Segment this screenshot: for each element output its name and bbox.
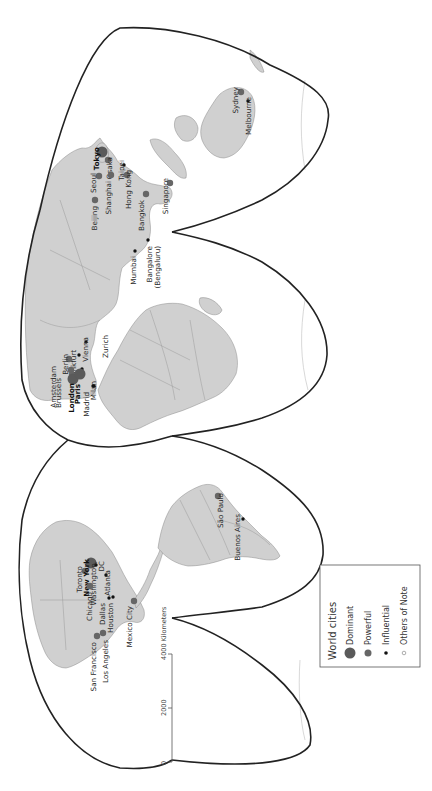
landmass-madagascar bbox=[199, 298, 222, 315]
legend-dominant-label: Dominant bbox=[346, 606, 355, 645]
landmass-central-america bbox=[134, 550, 163, 608]
city-marker-powerful bbox=[92, 197, 98, 203]
city-marker-powerful bbox=[108, 172, 114, 178]
city-label: Shanghai bbox=[104, 181, 113, 215]
city-melbourne: Melbourne bbox=[244, 96, 253, 135]
city-label: Tokyo bbox=[92, 147, 101, 170]
city-marker-powerful bbox=[87, 583, 93, 589]
city-label: Brussels bbox=[54, 378, 63, 408]
city-label: Beijing bbox=[90, 206, 99, 230]
city-label: DC bbox=[97, 561, 106, 572]
city-marker-influential bbox=[107, 596, 110, 599]
city-bangalore-bengaluru: Bangalore(Bengaluru) bbox=[145, 238, 162, 288]
legend-powerful-label: Powerful bbox=[364, 611, 373, 645]
legend-influential-symbol bbox=[384, 651, 388, 655]
city-marker-powerful bbox=[131, 598, 137, 604]
city-marker-powerful bbox=[100, 630, 106, 636]
legend-others-label: Others of Note bbox=[400, 586, 409, 645]
city-s-o-paulo: São Paulo bbox=[215, 493, 225, 528]
city-marker-influential bbox=[92, 384, 95, 387]
city-vienna: Vienna bbox=[81, 337, 90, 362]
city-label: Bangkok bbox=[137, 199, 146, 231]
city-marker-dominant bbox=[75, 369, 86, 380]
city-label: Houston bbox=[106, 603, 115, 633]
city-label: Melbourne bbox=[244, 96, 253, 135]
landmass-sea-islands bbox=[150, 139, 186, 178]
scale-label-4000: 4000 Kilometers bbox=[160, 606, 168, 660]
city-label: Hong Kong bbox=[124, 170, 133, 209]
city-label: Vienna bbox=[81, 337, 90, 362]
landmass-borneo bbox=[174, 116, 198, 142]
city-label: Mexico City bbox=[125, 605, 134, 647]
city-atlanta: Atlanta bbox=[103, 570, 112, 596]
city-label: Madrid bbox=[82, 392, 91, 417]
legend: World cities Dominant Powerful Influenti… bbox=[320, 565, 420, 667]
city-marker-powerful bbox=[143, 191, 149, 197]
city-label: Mumbai bbox=[129, 256, 138, 285]
meridian-lines bbox=[299, 80, 308, 740]
city-label: Sydney bbox=[231, 86, 240, 113]
landmass-new-zealand bbox=[250, 50, 264, 72]
scale-bar: 0 2000 4000 Kilometers bbox=[160, 606, 172, 765]
city-label: Singapore bbox=[161, 177, 170, 214]
legend-others-symbol bbox=[402, 651, 406, 655]
city-label: San Francisco bbox=[89, 642, 98, 691]
city-label: São Paulo bbox=[216, 493, 225, 528]
city-label: Buenos Aires bbox=[233, 514, 242, 561]
city-marker-powerful bbox=[94, 633, 100, 639]
city-label: Atlanta bbox=[103, 570, 112, 596]
city-label: Chicago bbox=[85, 592, 94, 621]
world-cities-map: TokyoOsakaSeoulTaipeiShanghaiHong KongSi… bbox=[0, 0, 432, 791]
city-marker-influential bbox=[133, 249, 136, 252]
legend-title: World cities bbox=[327, 602, 338, 660]
city-label: (Bengaluru) bbox=[153, 246, 162, 289]
scale-label-0: 0 bbox=[160, 761, 168, 765]
city-label: Paris bbox=[73, 384, 82, 404]
legend-powerful-symbol bbox=[365, 650, 372, 657]
scale-label-2000: 2000 bbox=[160, 699, 168, 716]
city-label: Zurich bbox=[101, 335, 110, 358]
legend-influential-label: Influential bbox=[382, 605, 391, 645]
legend-dominant-symbol bbox=[345, 648, 356, 659]
city-marker-influential bbox=[111, 595, 114, 598]
city-label: Seoul bbox=[89, 173, 98, 193]
city-hong-kong: Hong Kong bbox=[124, 170, 133, 209]
city-marker-influential bbox=[146, 238, 149, 241]
city-label: Los Angeles bbox=[101, 640, 110, 683]
